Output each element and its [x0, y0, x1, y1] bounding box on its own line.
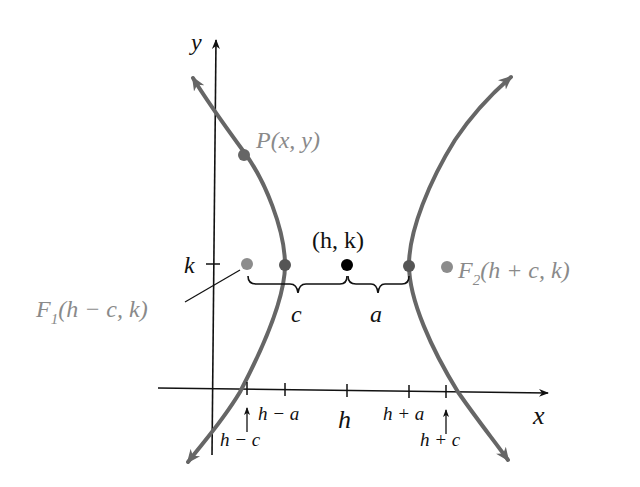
k-tick-label: k	[184, 252, 195, 278]
hyperbola-diagram: y x k P(x, y) (h, k) F2(h + c, k) F1(h −…	[0, 0, 640, 487]
focus-F2	[441, 261, 453, 273]
tick-label-h-minus-c: h − c	[220, 429, 261, 450]
point-P-label: P(x, y)	[255, 127, 320, 153]
vertex-right	[403, 260, 415, 272]
brace-c-label: c	[291, 301, 302, 327]
brace-c	[248, 276, 347, 293]
center-label: (h, k)	[312, 227, 364, 253]
x-axis-label: x	[532, 401, 545, 430]
y-axis	[212, 40, 216, 455]
center-point	[341, 259, 353, 271]
y-axis-label: y	[189, 29, 202, 55]
tick-label-h: h	[338, 405, 351, 434]
tick-label-h-plus-a: h + a	[383, 403, 424, 424]
brace-a	[348, 276, 409, 293]
vertex-left	[279, 259, 291, 271]
brace-a-label: a	[370, 301, 382, 327]
focus-F1-label: F1(h − c, k)	[35, 296, 148, 327]
tick-label-h-plus-c: h + c	[420, 429, 461, 450]
focus-F2-label: F2(h + c, k)	[457, 257, 570, 288]
focus-F1	[241, 258, 253, 270]
tick-label-h-minus-a: h − a	[258, 403, 299, 424]
x-axis	[158, 388, 548, 393]
point-P	[238, 149, 250, 161]
